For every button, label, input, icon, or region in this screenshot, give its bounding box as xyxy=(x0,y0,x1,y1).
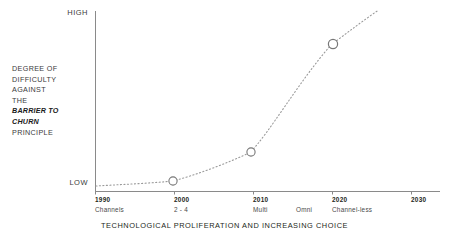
x-tick-year-2000: 2000 xyxy=(174,196,189,205)
x-tick-1990: 1990 Channels xyxy=(95,196,124,213)
x-tick-sub-2000: 2 - 4 xyxy=(174,206,189,213)
x-tick-omni: Omni xyxy=(296,196,312,213)
data-point-2020 xyxy=(328,39,337,48)
x-tick-year-1990: 1990 xyxy=(95,196,124,205)
x-tick-sub-omni: Omni xyxy=(296,206,312,213)
data-point-2010 xyxy=(247,148,255,156)
x-tick-2000: 2000 2 - 4 xyxy=(174,196,189,213)
x-tick-sub-1990: Channels xyxy=(95,206,124,213)
x-tick-year-2030: 2030 xyxy=(411,196,426,205)
data-point-2000 xyxy=(169,177,177,185)
x-tick-2020: 2020 Channel-less xyxy=(332,196,372,213)
x-axis-caption: TECHNOLOGICAL PROLIFERATION AND INCREASI… xyxy=(0,221,449,230)
x-tick-sub-2020: Channel-less xyxy=(332,206,372,213)
x-tick-sub-2010: Multi xyxy=(253,206,268,213)
x-tick-2010: 2010 Multi xyxy=(253,196,268,213)
chart-container: HIGH LOW DEGREE OF DIFFICULTY AGAINST TH… xyxy=(0,0,449,244)
plot-area xyxy=(0,0,449,244)
x-tick-year-2010: 2010 xyxy=(253,196,268,205)
x-tick-2030: 2030 xyxy=(411,196,426,206)
trend-line xyxy=(96,11,378,187)
x-tick-year-2020: 2020 xyxy=(332,196,372,205)
